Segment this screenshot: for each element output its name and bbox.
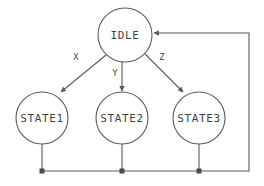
junction-state1 bbox=[40, 169, 45, 174]
node-state2[interactable]: STATE2 bbox=[96, 92, 148, 144]
junction-state2 bbox=[120, 169, 125, 174]
edge-label-z: Z bbox=[159, 52, 165, 62]
node-state1[interactable]: STATE1 bbox=[16, 92, 68, 144]
node-state2-label: STATE2 bbox=[100, 112, 143, 125]
node-state1-label: STATE1 bbox=[20, 112, 63, 125]
node-idle-label: IDLE bbox=[111, 29, 140, 42]
node-idle[interactable]: IDLE bbox=[98, 8, 152, 62]
junction-state3 bbox=[197, 169, 202, 174]
edge-label-y: Y bbox=[112, 68, 118, 78]
edge-idle-to-state1 bbox=[61, 55, 106, 92]
state-diagram: X Y Z IDLE STATE1 STATE2 STATE3 bbox=[0, 0, 264, 186]
node-state3[interactable]: STATE3 bbox=[173, 92, 225, 144]
node-state3-label: STATE3 bbox=[177, 112, 220, 125]
edge-label-x: X bbox=[73, 52, 79, 62]
